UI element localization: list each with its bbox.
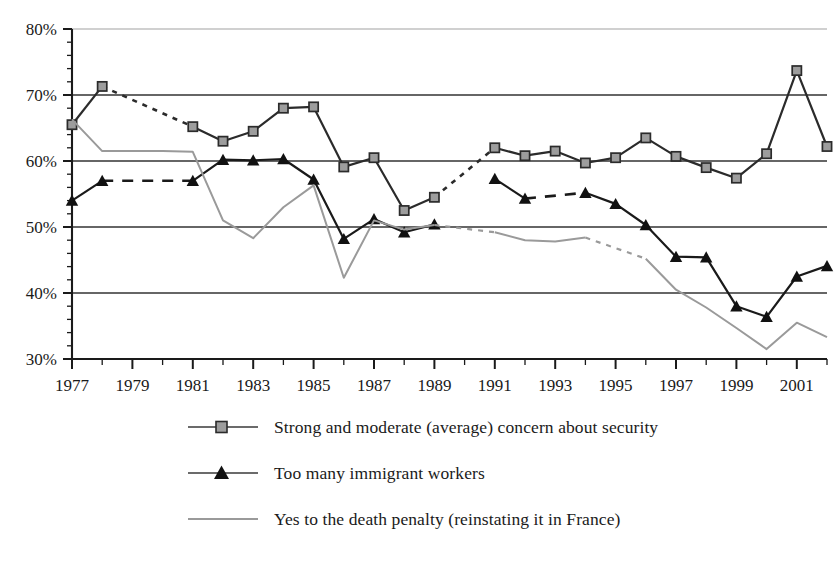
data-point-marker (792, 66, 801, 75)
x-tick-label: 1989 (417, 376, 451, 395)
y-tick-label: 60% (26, 152, 57, 171)
data-point-marker (702, 163, 711, 172)
y-tick-label: 40% (26, 284, 57, 303)
data-point-marker (489, 173, 501, 184)
y-tick-label: 50% (26, 218, 57, 237)
data-point-marker (428, 218, 440, 229)
x-tick-label: 1977 (55, 376, 90, 395)
legend-label-death-penalty: Yes to the death penalty (reinstating it… (274, 509, 620, 530)
x-axis-ticks (72, 359, 827, 369)
data-point-marker (641, 133, 650, 142)
data-point-marker (762, 149, 771, 158)
data-point-marker (822, 142, 831, 151)
data-point-marker (430, 193, 439, 202)
plot-area: 30%40%50%60%70%80% 197719791981198319851… (0, 0, 839, 400)
data-point-marker (218, 137, 227, 146)
data-point-marker (490, 143, 499, 152)
data-point-marker (369, 153, 378, 162)
x-tick-label: 1983 (236, 376, 270, 395)
series-line-interpolated (434, 225, 494, 232)
legend-item-immigrants[interactable]: Too many immigrant workers (0, 450, 839, 496)
axis-lines (72, 29, 827, 359)
data-point-marker (821, 260, 833, 271)
gridlines (72, 29, 827, 293)
x-tick-label: 1999 (719, 376, 753, 395)
y-tick-labels: 30%40%50%60%70%80% (26, 20, 57, 369)
data-point-marker (188, 122, 197, 131)
legend-item-death-penalty[interactable]: Yes to the death penalty (reinstating it… (0, 496, 839, 542)
x-tick-label: 1991 (478, 376, 512, 395)
data-point-marker (551, 147, 560, 156)
x-tick-label: 1995 (599, 376, 633, 395)
series-line (193, 107, 435, 211)
data-point-marker (671, 152, 680, 161)
data-point-marker (611, 153, 620, 162)
y-tick-label: 30% (26, 350, 57, 369)
series-line (495, 232, 586, 241)
y-axis-ticks (63, 29, 72, 359)
data-point-marker (732, 174, 741, 183)
data-point-marker (339, 162, 348, 171)
data-point-marker (730, 300, 742, 311)
x-tick-label: 1997 (659, 376, 694, 395)
data-point-marker (249, 127, 258, 136)
series-line (72, 86, 102, 124)
series-line (495, 71, 827, 179)
x-tick-label: 1981 (176, 376, 210, 395)
line-chart-svg: 30%40%50%60%70%80% 197719791981198319851… (0, 0, 839, 400)
x-tick-label: 1979 (115, 376, 149, 395)
data-point-marker (579, 187, 591, 198)
series-line-interpolated (434, 148, 494, 198)
series-0 (67, 66, 831, 215)
series-1 (66, 153, 833, 322)
x-tick-label: 1987 (357, 376, 392, 395)
data-series-layer (66, 66, 833, 349)
series-2 (72, 119, 827, 349)
legend-key-square-icon (186, 415, 260, 439)
data-point-marker (309, 102, 318, 111)
x-tick-label: 1985 (297, 376, 331, 395)
series-line-interpolated (585, 238, 645, 259)
chart-legend: Strong and moderate (average) concern ab… (0, 404, 839, 571)
x-tick-label: 2001 (780, 376, 814, 395)
series-line (72, 119, 434, 277)
data-point-marker (338, 233, 350, 244)
y-tick-label: 70% (26, 86, 57, 105)
x-tick-labels: 1977197919811983198519871989199119931995… (55, 376, 814, 395)
legend-label-security: Strong and moderate (average) concern ab… (274, 417, 658, 438)
chart-root: 30%40%50%60%70%80% 197719791981198319851… (0, 0, 839, 571)
x-tick-label: 1993 (538, 376, 572, 395)
data-point-marker (307, 173, 319, 184)
legend-key-triangle-icon (186, 461, 260, 485)
legend-item-security[interactable]: Strong and moderate (average) concern ab… (0, 404, 839, 450)
data-point-marker (279, 104, 288, 113)
data-point-marker (581, 158, 590, 167)
series-line-interpolated (525, 193, 585, 199)
legend-label-immigrants: Too many immigrant workers (274, 463, 485, 484)
series-line-interpolated (102, 86, 193, 126)
data-point-marker (609, 198, 621, 209)
y-tick-label: 80% (26, 20, 57, 39)
data-point-marker (400, 206, 409, 215)
data-point-marker (98, 82, 107, 91)
data-point-marker (520, 151, 529, 160)
legend-key-plain-line-icon (186, 507, 260, 531)
